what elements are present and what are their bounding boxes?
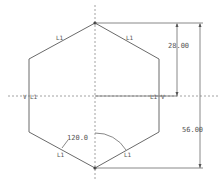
constraint-vertical-left: V <box>23 93 27 100</box>
constraint-l1-top-left: L1 <box>56 34 64 41</box>
constraint-l1-top-right: L1 <box>126 34 134 41</box>
arrow-down-icon <box>199 164 202 168</box>
arrow-down-icon <box>176 92 179 96</box>
arrow-up-icon <box>199 23 202 27</box>
dimension-56-label[interactable]: 56.00 <box>182 126 203 134</box>
constraint-l1-left: L1 <box>30 93 38 100</box>
angle-120-label[interactable]: 120.0 <box>67 134 88 142</box>
angle-arc[interactable] <box>95 133 126 150</box>
sketch-canvas[interactable]: 28.00 56.00 120.0 L1 L1 L1 L1 L1 L1 V V <box>0 0 220 186</box>
constraint-vertical-right: V <box>161 93 165 100</box>
constraint-l1-right: L1 <box>150 93 158 100</box>
dimension-28-label[interactable]: 28.00 <box>168 42 189 50</box>
constraint-l1-bottom-left: L1 <box>57 151 65 158</box>
hexagon-outline[interactable] <box>29 23 159 168</box>
arrow-up-icon <box>176 23 179 27</box>
constraint-l1-bottom-right: L1 <box>124 151 132 158</box>
